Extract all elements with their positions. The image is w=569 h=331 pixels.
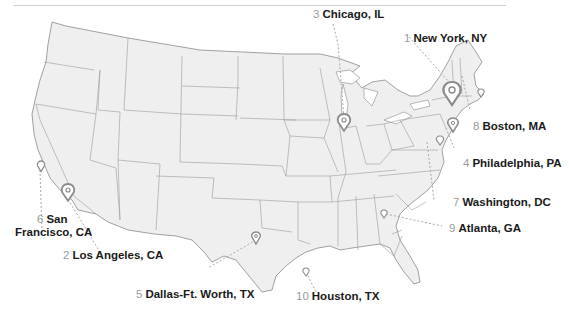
city-label-dallas[interactable]: 5Dallas-Ft. Worth, TX	[136, 288, 254, 301]
map-marker-san-francisco[interactable]	[37, 161, 44, 172]
city-label-new-york[interactable]: 1New York, NY	[404, 32, 487, 45]
city-label-san-francisco[interactable]: 6San Francisco, CA	[15, 213, 85, 239]
city-label-boston[interactable]: 8Boston, MA	[473, 120, 546, 133]
city-label-atlanta[interactable]: 9Atlanta, GA	[449, 222, 521, 235]
city-label-chicago[interactable]: 3Chicago, IL	[313, 8, 384, 21]
city-label-houston[interactable]: 10Houston, TX	[296, 290, 380, 303]
city-label-philadelphia[interactable]: 4Philadelphia, PA	[463, 157, 562, 170]
map-marker-houston[interactable]	[303, 268, 309, 276]
city-label-washington[interactable]: 7Washington, DC	[453, 196, 551, 209]
city-label-los-angeles[interactable]: 2Los Angeles, CA	[63, 249, 163, 262]
